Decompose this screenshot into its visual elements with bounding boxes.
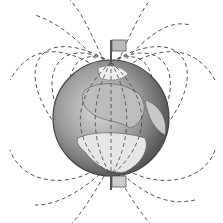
globe [53, 60, 169, 176]
illustration-canvas [0, 0, 223, 223]
earth-magnetic-field-illustration [0, 0, 223, 223]
